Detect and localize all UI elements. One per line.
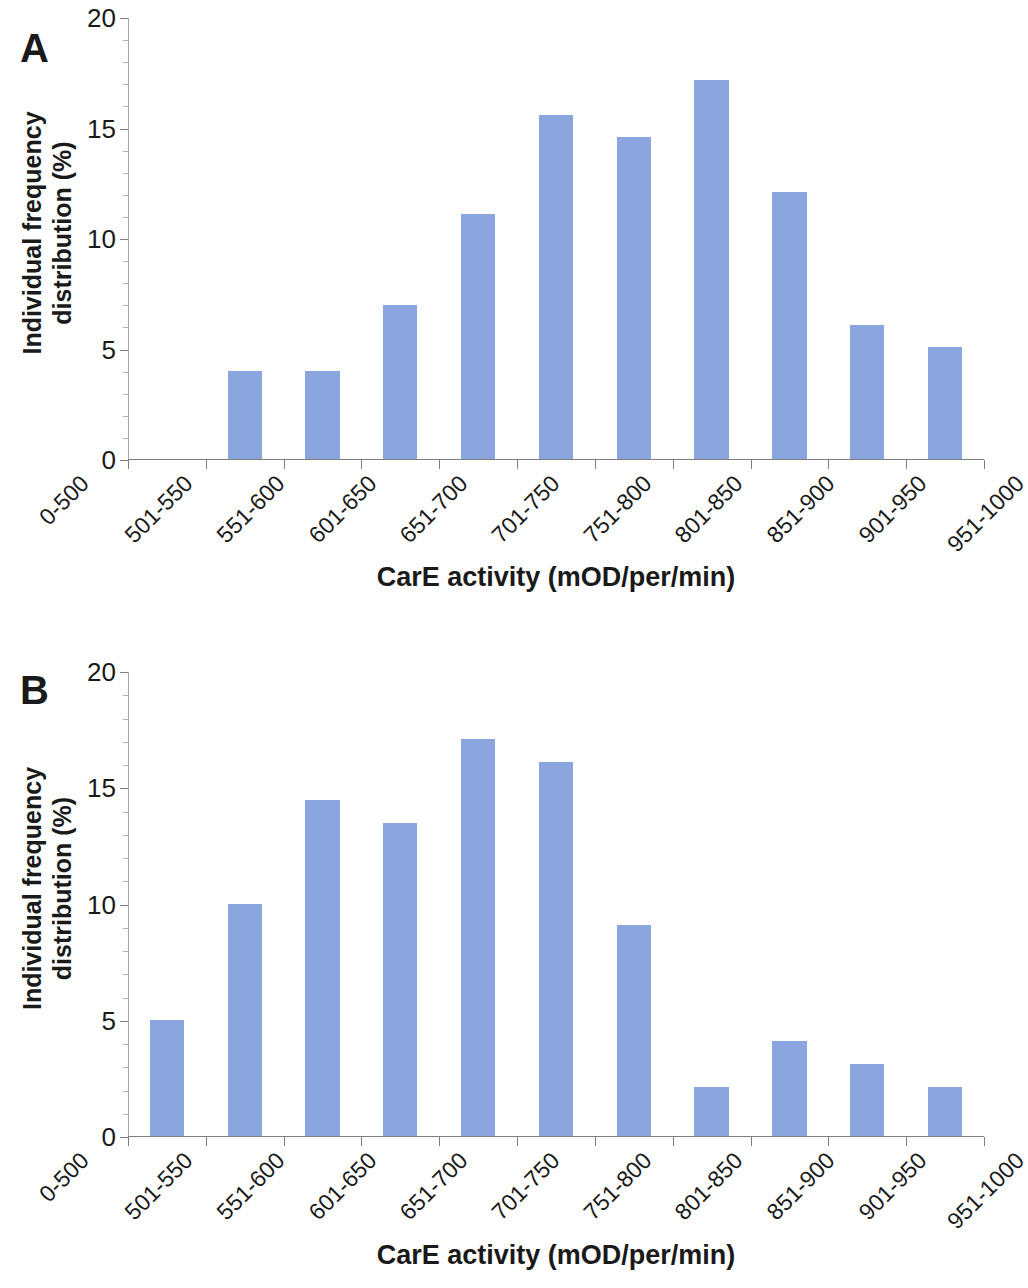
y-tick-minor xyxy=(123,719,128,720)
bar-slot xyxy=(595,18,673,459)
y-tick-minor xyxy=(123,835,128,836)
y-tick-minor xyxy=(123,151,128,152)
bar-slot xyxy=(673,672,751,1136)
x-label-slot: 501-550 xyxy=(92,1139,184,1249)
y-tick-major xyxy=(120,18,128,19)
bar-801-850[interactable] xyxy=(694,1087,728,1136)
bar-651-700[interactable] xyxy=(461,739,495,1136)
bar-701-750[interactable] xyxy=(539,115,573,459)
y-tick-minor xyxy=(123,84,128,85)
x-tick-label-0-500: 0-500 xyxy=(34,470,95,531)
x-label-slot: 0-500 xyxy=(0,462,92,572)
bar-951-1000[interactable] xyxy=(928,1087,962,1136)
bar-951-1000[interactable] xyxy=(928,347,962,459)
y-tick-label-15: 15 xyxy=(87,113,116,144)
panel-a-plot-area: 05101520 xyxy=(128,18,984,460)
y-tick-minor xyxy=(123,1044,128,1045)
bar-slot xyxy=(439,672,517,1136)
bar-851-900[interactable] xyxy=(772,192,806,459)
bar-801-850[interactable] xyxy=(694,80,728,459)
bar-751-800[interactable] xyxy=(617,925,651,1136)
bar-slot xyxy=(206,672,284,1136)
y-tick-major xyxy=(120,460,128,461)
bar-601-650[interactable] xyxy=(383,823,417,1136)
bar-slot xyxy=(751,18,829,459)
x-label-slot: 951-1000 xyxy=(916,1139,1008,1249)
x-tick-label-951-1000: 951-1000 xyxy=(942,470,1028,558)
y-tick-minor xyxy=(123,1114,128,1115)
bar-651-700[interactable] xyxy=(461,214,495,459)
y-tick-major xyxy=(120,788,128,789)
bar-751-800[interactable] xyxy=(617,137,651,459)
y-tick-minor xyxy=(123,106,128,107)
y-tick-minor xyxy=(123,394,128,395)
y-tick-minor xyxy=(123,372,128,373)
y-tick-minor xyxy=(123,1091,128,1092)
y-tick-label-5: 5 xyxy=(102,334,116,365)
bar-551-600[interactable] xyxy=(305,800,339,1136)
bar-slot xyxy=(906,18,984,459)
bar-501-550[interactable] xyxy=(228,904,262,1136)
panel-b: B Individual frequency distribution (%) … xyxy=(0,648,1008,1288)
bar-851-900[interactable] xyxy=(772,1041,806,1136)
panel-b-bar-group xyxy=(128,672,984,1136)
y-tick-minor xyxy=(123,1067,128,1068)
x-tick-label-0-500: 0-500 xyxy=(34,1147,95,1208)
y-tick-label-5: 5 xyxy=(102,1005,116,1036)
panel-a-x-tick-labels: 0-500501-550551-600601-650651-700701-750… xyxy=(0,462,1008,572)
y-tick-minor xyxy=(123,881,128,882)
bar-601-650[interactable] xyxy=(383,305,417,459)
bar-slot xyxy=(128,18,206,459)
bar-501-550[interactable] xyxy=(228,371,262,459)
bar-701-750[interactable] xyxy=(539,762,573,1136)
y-tick-major xyxy=(120,1137,128,1138)
bar-551-600[interactable] xyxy=(305,371,339,459)
x-label-slot: 601-650 xyxy=(275,1139,367,1249)
panel-b-x-axis-title: CarE activity (mOD/per/min) xyxy=(128,1240,984,1271)
y-tick-major xyxy=(120,350,128,351)
panel-b-plot-area: 05101520 xyxy=(128,672,984,1137)
bar-slot xyxy=(128,672,206,1136)
bar-slot xyxy=(595,672,673,1136)
bar-901-950[interactable] xyxy=(850,1064,884,1136)
bar-slot xyxy=(673,18,751,459)
bar-slot xyxy=(517,18,595,459)
y-tick-major xyxy=(120,1021,128,1022)
x-label-slot: 801-850 xyxy=(641,1139,733,1249)
y-tick-minor xyxy=(123,765,128,766)
y-tick-minor xyxy=(123,998,128,999)
bar-slot xyxy=(517,672,595,1136)
y-tick-minor xyxy=(123,974,128,975)
y-tick-minor xyxy=(123,695,128,696)
x-label-slot: 701-750 xyxy=(458,1139,550,1249)
y-tick-minor xyxy=(123,742,128,743)
x-label-slot: 801-850 xyxy=(641,462,733,572)
x-label-slot: 901-950 xyxy=(825,1139,917,1249)
y-tick-label-20: 20 xyxy=(87,657,116,688)
y-tick-label-15: 15 xyxy=(87,773,116,804)
bar-slot xyxy=(828,18,906,459)
bar-slot xyxy=(206,18,284,459)
y-tick-major xyxy=(120,672,128,673)
x-label-slot: 751-800 xyxy=(550,1139,642,1249)
y-tick-minor xyxy=(123,261,128,262)
y-tick-major xyxy=(120,905,128,906)
bar-901-950[interactable] xyxy=(850,325,884,460)
y-tick-label-20: 20 xyxy=(87,3,116,34)
y-tick-label-10: 10 xyxy=(87,889,116,920)
y-tick-minor xyxy=(123,438,128,439)
panel-a-y-axis-title-line1: Individual frequency xyxy=(18,111,46,354)
panel-a-y-axis-title: Individual frequency distribution (%) xyxy=(18,18,77,448)
y-tick-minor xyxy=(123,195,128,196)
y-tick-label-10: 10 xyxy=(87,224,116,255)
y-tick-minor xyxy=(123,40,128,41)
panel-a-y-axis-title-line2: distribution (%) xyxy=(48,18,78,448)
bar-0-500[interactable] xyxy=(150,1020,184,1136)
x-label-slot: 751-800 xyxy=(550,462,642,572)
y-tick-minor xyxy=(123,416,128,417)
x-label-slot: 901-950 xyxy=(825,462,917,572)
bar-slot xyxy=(828,672,906,1136)
bar-slot xyxy=(361,672,439,1136)
y-tick-minor xyxy=(123,951,128,952)
x-tick-label-951-1000: 951-1000 xyxy=(942,1147,1028,1235)
